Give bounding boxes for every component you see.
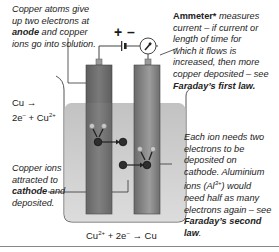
cathode-equation: Cu2+ + 2e– → Cu <box>86 230 157 241</box>
beaker <box>56 76 192 222</box>
copper-atom-icon <box>143 161 151 169</box>
cathode-note: Copper ions attracted to cathode and dep… <box>12 163 72 209</box>
ammeter-note: Ammeter* measures current – if current o… <box>173 11 279 92</box>
divider-line <box>0 246 279 247</box>
anode-note: Copper atoms give up two electrons at an… <box>12 4 132 50</box>
anode-equation: Cu → 2e– + Cu2+ <box>12 97 56 124</box>
copper-ion-icon <box>119 161 127 169</box>
cathode-electrode <box>134 65 160 214</box>
electron-icon <box>137 146 142 151</box>
copper-atom-icon <box>94 138 102 146</box>
cathode-terminal <box>145 59 151 65</box>
anode-terminal <box>96 59 102 65</box>
second-law-note: Each ion needs two electrons to be depos… <box>184 132 279 239</box>
electron-icon <box>150 146 155 151</box>
electron-icon <box>101 123 106 128</box>
ammeter-icon <box>140 38 156 54</box>
copper-ion-icon <box>119 138 127 146</box>
electron-icon <box>89 123 94 128</box>
